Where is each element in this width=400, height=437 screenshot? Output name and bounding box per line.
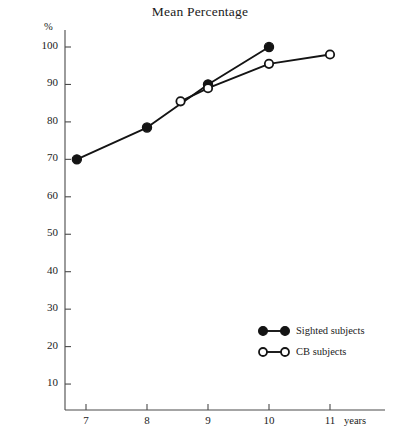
y-tick-label: 60 — [10, 189, 58, 201]
series-line-1 — [77, 47, 269, 159]
y-tick-label: 30 — [10, 301, 58, 313]
data-point-marker-series-1 — [264, 42, 273, 51]
y-tick-label: 20 — [10, 339, 58, 351]
y-tick-label: 40 — [10, 264, 58, 276]
plot-area — [0, 0, 400, 437]
y-tick-label: 100 — [10, 39, 58, 51]
data-point-marker-series-2 — [204, 84, 212, 92]
y-axis-ticks — [65, 47, 71, 384]
filled-circle-icon — [258, 324, 290, 338]
x-tick-label: 7 — [66, 414, 106, 426]
data-point-marker-series-2 — [326, 50, 334, 58]
legend-label: CB subjects — [296, 346, 346, 357]
x-tick-label: 9 — [188, 414, 228, 426]
x-axis-unit-label: years — [344, 415, 366, 426]
y-tick-label: 10 — [10, 376, 58, 388]
data-point-marker-series-2 — [265, 60, 273, 68]
legend-item-1: Sighted subjects — [258, 320, 398, 341]
legend-item-2: CB subjects — [258, 341, 398, 362]
y-tick-label: 70 — [10, 151, 58, 163]
y-tick-label: 80 — [10, 114, 58, 126]
data-series-group — [72, 42, 334, 164]
x-axis-ticks — [86, 404, 330, 410]
open-circle-icon — [258, 345, 290, 359]
x-tick-label: 10 — [249, 414, 289, 426]
y-tick-label: 90 — [10, 76, 58, 88]
data-point-marker-series-1 — [142, 123, 151, 132]
series-line-2 — [181, 54, 330, 101]
legend-label: Sighted subjects — [296, 325, 365, 336]
chart-figure: Mean Percentage % 102030405060708090100 … — [0, 0, 400, 437]
chart-legend: Sighted subjectsCB subjects — [258, 320, 398, 362]
data-point-marker-series-2 — [176, 97, 184, 105]
y-tick-label: 50 — [10, 226, 58, 238]
x-tick-label: 8 — [127, 414, 167, 426]
data-point-marker-series-1 — [72, 155, 81, 164]
